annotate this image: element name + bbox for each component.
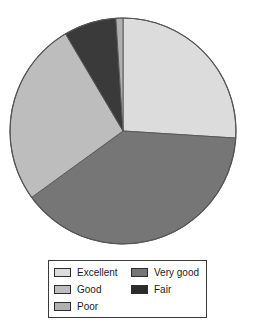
legend-label-very-good: Very good xyxy=(154,268,199,278)
legend-swatch-excellent xyxy=(54,268,71,277)
pie-slice-excellent[interactable] xyxy=(123,18,236,138)
legend-label-fair: Fair xyxy=(154,285,171,295)
legend-item-very-good[interactable]: Very good xyxy=(131,264,199,281)
pie-chart-svg xyxy=(0,0,255,255)
legend-label-excellent: Excellent xyxy=(77,268,118,278)
legend-swatch-very-good xyxy=(131,268,148,277)
legend-item-good[interactable]: Good xyxy=(54,281,118,298)
chart-legend: Excellent Good Poor Very good Fair xyxy=(48,260,207,318)
legend-swatch-fair xyxy=(131,285,148,294)
legend-label-good: Good xyxy=(77,285,101,295)
legend-column-right: Very good Fair xyxy=(131,264,199,298)
legend-item-fair[interactable]: Fair xyxy=(131,281,199,298)
legend-item-excellent[interactable]: Excellent xyxy=(54,264,118,281)
pie-chart-area xyxy=(0,0,255,255)
legend-label-poor: Poor xyxy=(77,302,98,312)
legend-swatch-good xyxy=(54,285,71,294)
legend-column-left: Excellent Good Poor xyxy=(54,264,118,315)
pie-slice-group xyxy=(10,18,236,244)
legend-swatch-poor xyxy=(54,302,71,311)
legend-item-poor[interactable]: Poor xyxy=(54,298,118,315)
